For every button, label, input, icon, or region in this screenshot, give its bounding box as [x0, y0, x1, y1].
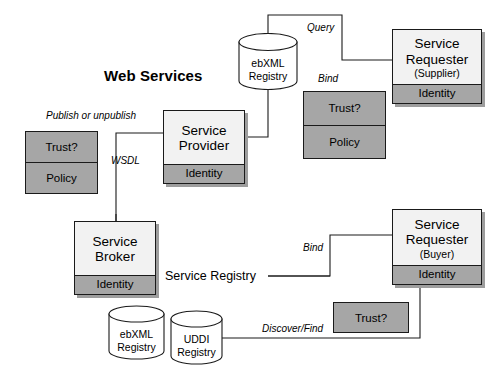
registry-cylinder-ebxml-bottom-label: ebXML Registry [108, 328, 165, 353]
service-registry-label: Service Registry [165, 269, 256, 283]
registry-cylinder-uddi-label: UDDI Registry [170, 333, 223, 358]
edge-label-bind-top: Bind [318, 73, 338, 84]
edge-label-publish: Publish or unpublish [46, 110, 136, 121]
policy-box-lower-right-trust: Trust? [334, 303, 408, 332]
service-requester-buyer-name: Service Requester [406, 217, 468, 248]
policy-box-left-policy: Policy [26, 162, 97, 193]
service-requester-buyer-body: Service Requester (Buyer) [393, 210, 481, 265]
policy-box-upper-right: Trust? Policy [303, 91, 386, 159]
node-service-provider[interactable]: Service Provider Identity [163, 110, 245, 184]
policy-box-upper-right-trust: Trust? [304, 92, 385, 125]
node-service-requester-supplier[interactable]: Service Requester (Supplier) Identity [392, 29, 482, 104]
registry-cylinder-ebxml-top-label: ebXML Registry [238, 57, 298, 82]
registry-cylinder-uddi: UDDI Registry [170, 310, 223, 365]
registry-cylinder-ebxml-bottom: ebXML Registry [108, 305, 165, 360]
edge-label-discover-find: Discover/Find [262, 323, 323, 334]
edge-label-bind-bottom: Bind [303, 242, 323, 253]
service-provider-body: Service Provider [164, 111, 244, 164]
edge-label-query: Query [307, 22, 334, 33]
service-requester-supplier-body: Service Requester (Supplier) [393, 30, 481, 84]
service-requester-supplier-subtitle: (Supplier) [414, 67, 460, 79]
node-service-requester-buyer[interactable]: Service Requester (Buyer) Identity [392, 209, 482, 285]
registry-cylinder-ebxml-top: ebXML Registry [238, 33, 298, 90]
service-requester-supplier-identity: Identity [393, 84, 481, 103]
policy-box-left-trust: Trust? [26, 132, 97, 162]
service-broker-body: Service Broker [75, 222, 155, 275]
web-services-diagram: Web Services Publish or unpublish WSDL Q… [0, 0, 492, 376]
service-provider-identity: Identity [164, 164, 244, 183]
edge-label-wsdl: WSDL [111, 155, 140, 166]
service-requester-supplier-name: Service Requester [406, 36, 468, 67]
policy-box-upper-right-policy: Policy [304, 125, 385, 159]
policy-box-lower-right: Trust? [333, 302, 409, 333]
service-broker-name: Service Broker [92, 234, 137, 265]
service-broker-identity: Identity [75, 275, 155, 294]
node-service-broker[interactable]: Service Broker Identity [74, 221, 156, 295]
policy-box-left: Trust? Policy [25, 131, 98, 194]
service-requester-buyer-subtitle: (Buyer) [420, 248, 454, 260]
service-provider-name: Service Provider [179, 123, 229, 154]
service-requester-buyer-identity: Identity [393, 265, 481, 284]
page-title: Web Services [104, 67, 202, 84]
